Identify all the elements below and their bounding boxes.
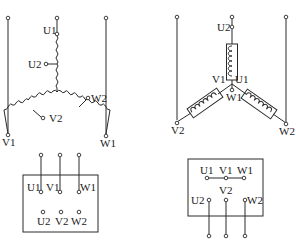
left-box-ext-terminal-1 [39, 153, 43, 157]
left-label-w2: W2 [91, 92, 107, 104]
right-top-terminal-1 [175, 15, 179, 19]
left-box-label-u2: U2 [37, 215, 50, 227]
right-terminal-box: U1 V1 W1 V2 U2 W2 [188, 159, 263, 238]
left-v2-tap [33, 110, 41, 117]
right-box-u1-terminal [205, 176, 209, 180]
right-box-label-w2: W2 [247, 194, 263, 206]
right-top-terminal-2 [230, 15, 234, 19]
right-coil-w [246, 92, 273, 112]
right-label-w1: W1 [226, 91, 242, 103]
motor-winding-diagrams: U1 U2 V2 W2 V1 W1 U1 V1 W1 U2 V2 W2 [0, 0, 296, 245]
right-label-v1: V1 [212, 73, 225, 85]
left-box-ext-terminal-3 [77, 153, 81, 157]
right-label-u2: U2 [217, 21, 230, 33]
right-box-u2-terminal [207, 198, 211, 202]
left-box-label-v2: V2 [55, 215, 68, 227]
right-box-label-v1: V1 [219, 164, 232, 176]
left-box-label-w2: W2 [71, 215, 87, 227]
right-box-v1-terminal [224, 176, 228, 180]
left-label-u1: U1 [43, 24, 56, 36]
right-box-ext-terminal-2 [224, 234, 228, 238]
left-box-u2-terminal [41, 210, 45, 214]
left-w2-terminal [86, 96, 90, 100]
left-box-v2-terminal [59, 210, 63, 214]
right-top-terminal-3 [284, 15, 288, 19]
left-label-v1: V1 [2, 136, 15, 148]
left-terminal-box: U1 V1 W1 U2 V2 W2 [23, 153, 98, 232]
right-label-v2: V2 [171, 124, 184, 136]
right-box-label-u2: U2 [191, 194, 204, 206]
left-w2-tap [79, 99, 87, 107]
left-u2-terminal [44, 62, 48, 66]
right-box-label-w1: W1 [237, 164, 253, 176]
right-v-coil-lead-bottom [177, 113, 191, 122]
left-box-label-v1: V1 [46, 181, 59, 193]
left-label-w1: W1 [100, 137, 116, 149]
right-w-coil-lead-bottom [273, 114, 286, 123]
right-box-v2-terminal [224, 198, 228, 202]
left-label-u2: U2 [28, 58, 41, 70]
right-label-w2: W2 [279, 125, 295, 137]
left-top-terminal-2 [55, 16, 59, 20]
right-box-w1-terminal [242, 176, 246, 180]
right-coil-v-frame [187, 88, 223, 118]
left-v2-terminal [41, 116, 45, 120]
left-box-label-u1: U1 [27, 181, 40, 193]
left-box-ext-terminal-2 [58, 153, 62, 157]
right-winding-diagram: U2 V1 U1 W1 V2 W2 [171, 15, 295, 137]
left-top-terminal-1 [6, 16, 10, 20]
right-box-ext-terminal-3 [243, 234, 247, 238]
right-box-label-v2: V2 [219, 184, 232, 196]
right-coil-u [228, 46, 232, 76]
left-label-v2: V2 [49, 112, 62, 124]
right-box-label-u1: U1 [200, 164, 213, 176]
right-coil-v [190, 92, 217, 112]
right-box-ext-terminal-1 [207, 234, 211, 238]
right-label-u1: U1 [235, 73, 248, 85]
left-winding-diagram: U1 U2 V2 W2 V1 W1 [2, 16, 116, 149]
right-u2-terminal [230, 25, 234, 29]
left-box-w2-terminal [77, 210, 81, 214]
left-box-label-w1: W1 [80, 181, 96, 193]
left-top-terminal-3 [104, 16, 108, 20]
